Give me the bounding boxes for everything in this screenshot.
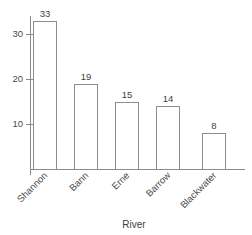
y-tick-label-10: 10	[12, 118, 23, 129]
chart-canvas: 30 20 10 33 19 15 14 8 Shannon Bann Erne	[0, 0, 252, 235]
value-label-blackwater: 8	[211, 120, 216, 131]
x-axis-category-labels: Shannon Bann Erne Barrow Blackwater	[15, 170, 219, 211]
x-label-shannon: Shannon	[15, 170, 50, 205]
bar-shannon[interactable]	[34, 22, 57, 170]
x-label-bann: Bann	[67, 170, 90, 193]
value-label-bann: 19	[81, 71, 92, 82]
x-axis-title: River	[122, 219, 146, 230]
bar-barrow[interactable]	[157, 107, 180, 170]
x-label-blackwater: Blackwater	[178, 170, 219, 211]
value-label-shannon: 33	[40, 8, 51, 19]
value-label-erne: 15	[122, 89, 133, 100]
value-label-barrow: 14	[163, 93, 174, 104]
y-tick-label-30: 30	[12, 28, 23, 39]
y-tick-label-20: 20	[12, 73, 23, 84]
bar-bann[interactable]	[75, 85, 98, 170]
bar-blackwater[interactable]	[203, 134, 226, 170]
bar-erne[interactable]	[116, 103, 139, 170]
x-label-barrow: Barrow	[143, 170, 172, 199]
y-axis: 30 20 10	[12, 16, 34, 175]
x-label-erne: Erne	[109, 170, 131, 192]
bar-chart: 30 20 10 33 19 15 14 8 Shannon Bann Erne	[0, 0, 252, 235]
y-axis-tick-labels: 30 20 10	[12, 28, 23, 129]
